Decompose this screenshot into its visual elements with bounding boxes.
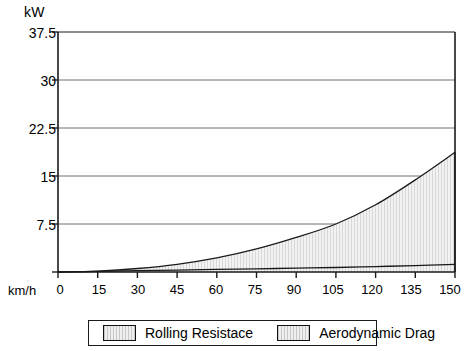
chart-container: kW km/h 37.5 30 22.5 15 7.5 0 15 30 45 6… bbox=[0, 0, 465, 351]
legend-swatch-icon bbox=[103, 325, 136, 341]
aerodynamic-drag-area bbox=[58, 152, 455, 272]
legend-label: Rolling Resistace bbox=[145, 326, 253, 340]
plot-area bbox=[0, 0, 465, 351]
legend-item-rolling-resistance: Rolling Resistace bbox=[103, 321, 253, 345]
y-axis-tick-marks bbox=[52, 32, 58, 272]
legend-swatch-icon bbox=[277, 325, 310, 341]
legend-label: Aerodynamic Drag bbox=[319, 326, 435, 340]
legend-item-aerodynamic-drag: Aerodynamic Drag bbox=[277, 321, 435, 345]
legend: Rolling Resistace Aerodynamic Drag bbox=[88, 320, 377, 346]
data-series-layer bbox=[58, 152, 455, 272]
x-axis-tick-marks bbox=[58, 272, 455, 278]
